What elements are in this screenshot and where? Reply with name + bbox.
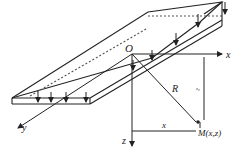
axes bbox=[18, 54, 222, 146]
slab bbox=[12, 2, 222, 104]
z-axis-label: z bbox=[121, 135, 126, 146]
origin-label: O bbox=[125, 42, 133, 54]
radius-label: R bbox=[171, 83, 178, 94]
x-dimension-label: x bbox=[161, 120, 166, 130]
y-axis-label: y bbox=[21, 122, 27, 133]
point-label: M(x,z) bbox=[197, 128, 221, 138]
radius-line bbox=[132, 54, 196, 122]
z0-dimension-label: z₀ bbox=[195, 86, 200, 91]
hidden-edge bbox=[30, 28, 148, 96]
point-m bbox=[196, 120, 200, 124]
slab-top-outline bbox=[12, 2, 222, 98]
slab-load-diagram: O x y z R x z₀ M(x,z) bbox=[0, 0, 241, 150]
diagram-canvas: O x y z R x z₀ M(x,z) bbox=[0, 0, 241, 150]
x-axis-label: x bbox=[225, 49, 231, 60]
